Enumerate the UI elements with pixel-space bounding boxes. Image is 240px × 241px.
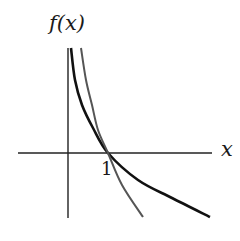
- black-curve: [71, 48, 210, 217]
- x-axis-label: x: [221, 139, 233, 160]
- x-tick-label-1: 1: [101, 160, 112, 178]
- function-plot: [0, 0, 240, 241]
- curves-group: [71, 48, 210, 217]
- y-axis-label: f(x): [49, 13, 85, 34]
- gray-curve: [81, 48, 143, 217]
